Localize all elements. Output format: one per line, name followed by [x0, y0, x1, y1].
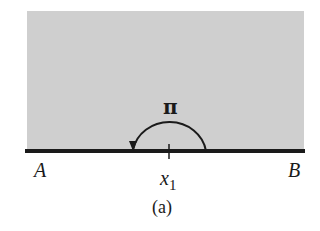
point-label-base: x: [160, 167, 169, 189]
figure-caption: (a): [152, 197, 172, 218]
endpoint-a-label: A: [34, 160, 46, 180]
point-label: x1: [160, 168, 176, 193]
endpoint-b-label: B: [288, 160, 300, 180]
point-label-subscript: 1: [169, 177, 177, 193]
arc-label: π: [163, 95, 178, 119]
